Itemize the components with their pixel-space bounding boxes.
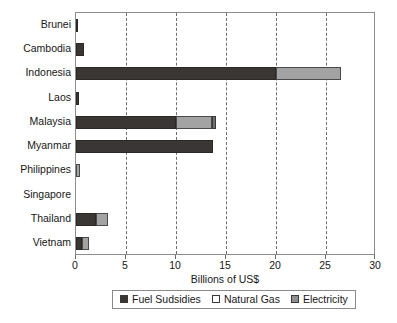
bar-row bbox=[76, 140, 374, 153]
x-axis-tick-label: 25 bbox=[319, 260, 331, 271]
y-axis-label-singapore: Singapore bbox=[0, 189, 71, 200]
y-axis-label-philippines: Philippines bbox=[0, 164, 71, 175]
legend-item-label: Electricity bbox=[303, 294, 348, 305]
x-axis-tick-label: 10 bbox=[169, 260, 181, 271]
bar-segment-fuel bbox=[76, 19, 78, 32]
x-axis-tick-label: 5 bbox=[122, 260, 128, 271]
stacked-bar bbox=[76, 213, 108, 226]
stacked-bar bbox=[76, 164, 80, 177]
y-axis-category-labels: BruneiCambodiaIndonesiaLaosMalaysiaMyanm… bbox=[0, 12, 71, 255]
bar-row bbox=[76, 43, 374, 56]
y-axis-label-indonesia: Indonesia bbox=[0, 67, 71, 78]
bar-segment-gas bbox=[96, 213, 108, 226]
stacked-bar bbox=[76, 237, 89, 250]
legend-swatch-icon bbox=[212, 295, 220, 303]
bar-segment-gas bbox=[276, 67, 341, 80]
x-axis-tick-label: 30 bbox=[369, 260, 381, 271]
bar-row bbox=[76, 237, 374, 250]
bar-segment-fuel bbox=[76, 140, 213, 153]
x-axis-tick-label: 15 bbox=[219, 260, 231, 271]
bar-segment-fuel bbox=[76, 116, 176, 129]
bar-chart: BruneiCambodiaIndonesiaLaosMalaysiaMyanm… bbox=[0, 0, 397, 323]
bar-rows bbox=[76, 13, 374, 254]
legend-item[interactable]: Fuel Sudsidies bbox=[120, 294, 201, 305]
x-axis-title: Billions of US$ bbox=[75, 274, 375, 285]
y-axis-label-laos: Laos bbox=[0, 92, 71, 103]
stacked-bar bbox=[76, 92, 79, 105]
stacked-bar bbox=[76, 140, 213, 153]
legend-item-label: Natural Gas bbox=[224, 294, 280, 305]
bar-segment-fuel bbox=[76, 67, 276, 80]
y-axis-label-cambodia: Cambodia bbox=[0, 43, 71, 54]
stacked-bar bbox=[76, 116, 216, 129]
bar-segment-gas bbox=[76, 164, 80, 177]
y-axis-label-brunei: Brunei bbox=[0, 19, 71, 30]
legend-item[interactable]: Electricity bbox=[291, 294, 348, 305]
stacked-bar bbox=[76, 19, 78, 32]
bar-segment-fuel bbox=[76, 92, 79, 105]
x-axis-tick-label: 0 bbox=[72, 260, 78, 271]
bar-row bbox=[76, 164, 374, 177]
x-axis-tick-label: 20 bbox=[269, 260, 281, 271]
bar-segment-fuel bbox=[76, 213, 96, 226]
bar-row bbox=[76, 189, 374, 202]
bar-segment-gas bbox=[82, 237, 89, 250]
plot-area bbox=[75, 12, 375, 255]
bar-row bbox=[76, 116, 374, 129]
bar-row bbox=[76, 92, 374, 105]
bar-row bbox=[76, 67, 374, 80]
legend-swatch-icon bbox=[291, 295, 299, 303]
bar-segment-elec bbox=[212, 116, 216, 129]
bar-row bbox=[76, 19, 374, 32]
bar-row bbox=[76, 213, 374, 226]
legend-item[interactable]: Natural Gas bbox=[212, 294, 280, 305]
stacked-bar bbox=[76, 67, 341, 80]
legend-item-label: Fuel Sudsidies bbox=[132, 294, 201, 305]
legend-swatch-icon bbox=[120, 295, 128, 303]
x-axis-tick-labels: 051015202530 bbox=[75, 260, 375, 274]
chart-legend: Fuel SudsidiesNatural GasElectricity bbox=[112, 290, 356, 309]
y-axis-label-thailand: Thailand bbox=[0, 213, 71, 224]
bar-segment-fuel bbox=[76, 43, 84, 56]
y-axis-label-vietnam: Vietnam bbox=[0, 237, 71, 248]
stacked-bar bbox=[76, 43, 84, 56]
bar-segment-gas bbox=[176, 116, 212, 129]
y-axis-label-myanmar: Myanmar bbox=[0, 140, 71, 151]
y-axis-label-malaysia: Malaysia bbox=[0, 116, 71, 127]
